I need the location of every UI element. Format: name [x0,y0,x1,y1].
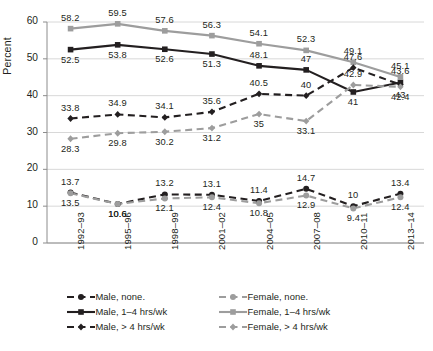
data-point-label: 9.4 [347,213,360,223]
data-point-label: 48.1 [250,50,269,60]
x-axis-tick-label: 1998–99 [169,212,180,250]
legend-row: Male, > 4 hrs/wkFemale, > 4 hrs/wk [0,319,433,334]
y-axis-tick-label: 0 [16,236,38,247]
data-point-label: 42.9 [344,69,363,79]
chart-container: Percent 0102030405060 1992–931995–961998… [0,0,433,351]
data-point-label: 33.8 [61,103,80,113]
data-point-label: 33.1 [297,126,316,136]
legend-label: Female, 1–4 hrs/wk [248,306,331,317]
data-point-label: 12.4 [391,202,410,212]
y-axis-tick-label: 10 [16,199,38,210]
y-axis-tick-label: 20 [16,162,38,173]
x-axis-tick-label: 1992–93 [75,212,86,250]
data-point-label: 57.6 [155,15,174,25]
data-point-label: 13.7 [61,177,80,187]
legend-item[interactable]: Female, 1–4 hrs/wk [218,306,368,318]
data-point-label: 52.3 [297,34,316,44]
legend-item[interactable]: Male, none. [66,291,218,303]
legend-marker-square-icon [66,306,96,318]
data-point-label: 13.2 [155,178,174,188]
data-point-label: 58.2 [61,13,80,23]
figure-caption [0,340,433,351]
legend-row: Male, 1–4 hrs/wkFemale, 1–4 hrs/wk [0,304,433,319]
data-point-label: 13.5 [61,198,80,208]
chart-legend: Male, none.Female, none.Male, 1–4 hrs/wk… [0,289,433,334]
data-point-label: 40.5 [250,78,269,88]
data-point-label: 28.3 [61,144,80,154]
legend-marker-diamond-icon [218,321,248,333]
data-point-label: 47 [301,54,312,64]
legend-label: Female, > 4 hrs/wk [248,321,328,332]
data-point-label: 41 [348,97,359,107]
data-point-label: 12.1 [155,203,174,213]
data-point-label: 10.8 [250,208,269,218]
data-point-label: 12.4 [202,202,221,212]
legend-label: Male, > 4 hrs/wk [96,321,165,332]
data-point-label: 34.9 [108,98,127,108]
legend-item[interactable]: Male, 1–4 hrs/wk [66,306,218,318]
data-point-label: 53.8 [108,50,127,60]
data-point-label: 35.6 [202,96,221,106]
x-axis-tick-label: 2007–08 [311,212,322,250]
x-axis-tick-label: 2013–14 [405,212,416,250]
data-point-label: 51.3 [202,59,221,69]
data-point-label: 56.3 [202,20,221,30]
legend-row: Male, none.Female, none. [0,289,433,304]
data-point-label: 13.4 [391,178,410,188]
legend-marker-circle-icon [66,291,96,303]
x-axis-tick-label: 2001–02 [216,212,227,250]
data-point-label: 14.7 [297,173,316,183]
legend-label: Female, none. [248,291,309,302]
y-axis-tick-label: 40 [16,89,38,100]
data-point-label: 12.9 [297,200,316,210]
data-point-label: 54.1 [250,28,269,38]
legend-label: Male, none. [96,291,146,302]
data-point-label: 11.4 [250,185,268,195]
legend-item[interactable]: Female, none. [218,291,368,303]
legend-marker-diamond-icon [66,321,96,333]
y-axis-tick-label: 50 [16,52,38,63]
y-axis-tick-label: 60 [16,15,38,26]
data-point-label: 42.4 [391,92,410,102]
legend-marker-circle-icon [218,291,248,303]
data-point-label: 29.8 [108,138,127,148]
legend-marker-square-icon [218,306,248,318]
legend-item[interactable]: Male, > 4 hrs/wk [66,321,218,333]
data-point-label: 52.5 [61,55,80,65]
legend-item[interactable]: Female, > 4 hrs/wk [218,321,368,333]
data-point-label: 10.6 [108,209,127,219]
data-point-label: 10 [348,190,359,200]
data-point-label: 31.2 [202,133,221,143]
y-axis-title: Percent [1,16,13,96]
data-point-label: 40 [301,80,312,90]
data-point-label: 35 [254,119,265,129]
data-point-label: 59.5 [108,8,127,18]
data-point-label: 13.1 [202,179,221,189]
data-point-label: 52.6 [155,54,174,64]
data-point-label: 45.1 [391,61,410,71]
data-point-label: 34.1 [155,101,174,111]
data-point-label: 30.2 [155,137,174,147]
y-axis-tick-label: 30 [16,126,38,137]
data-point-label: 47.6 [344,52,363,62]
legend-label: Male, 1–4 hrs/wk [96,306,168,317]
